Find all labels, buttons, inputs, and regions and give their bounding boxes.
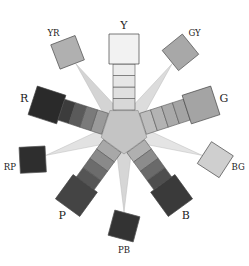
value-step: [113, 64, 135, 76]
hue-pb-wedge: [116, 151, 131, 212]
hue-chip-y: [109, 34, 139, 64]
hue-chip-pb: [108, 210, 140, 242]
hue-chip-rp: [19, 146, 46, 173]
hue-label-y: Y: [119, 19, 128, 32]
hue-label-gy: GY: [188, 28, 201, 38]
value-step: [113, 87, 135, 99]
hue-chip-bg: [197, 142, 233, 178]
hue-label-yr: YR: [46, 28, 60, 38]
hue-label-g: G: [219, 92, 228, 105]
hue-label-r: R: [20, 92, 29, 105]
hue-label-bg: BG: [232, 162, 245, 172]
munsell-hue-wheel: YGBPRGYBGPBRPYR: [0, 0, 249, 266]
hue-label-pb: PB: [118, 245, 130, 255]
hue-label-rp: RP: [4, 162, 16, 172]
hue-label-b: B: [182, 209, 190, 222]
value-step: [113, 76, 135, 88]
hue-chip-yr: [51, 36, 85, 70]
hue-chip-gy: [162, 34, 199, 71]
hue-y-arm: [109, 34, 139, 110]
value-step: [113, 99, 135, 111]
hue-label-p: P: [59, 209, 67, 222]
